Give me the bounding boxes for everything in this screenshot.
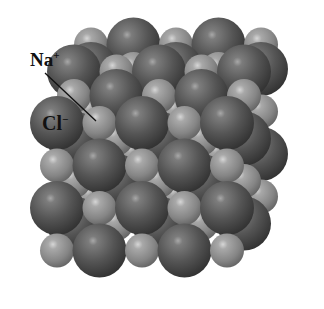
chloride-ion-sphere	[115, 181, 169, 235]
ion-spheres	[30, 18, 288, 278]
chloride-ion-sphere	[73, 139, 127, 193]
chloride-ion-sphere	[30, 181, 84, 235]
sodium-ion-sphere	[168, 106, 202, 140]
nacl-crystal-diagram: Na+ Cl−	[0, 0, 324, 309]
chloride-ion-sphere	[158, 139, 212, 193]
sodium-ion-sphere	[83, 106, 117, 140]
na-charge: +	[53, 49, 59, 61]
sodium-ion-sphere	[40, 149, 74, 183]
sodium-ion-sphere	[40, 234, 74, 268]
sodium-ion-sphere	[125, 149, 159, 183]
sodium-ion-sphere	[168, 191, 202, 225]
sodium-ion-sphere	[210, 234, 244, 268]
crystal-lattice	[0, 0, 324, 309]
cl-ion-label: Cl−	[42, 113, 68, 133]
cl-symbol: Cl	[42, 112, 62, 134]
chloride-ion-sphere	[115, 96, 169, 150]
sodium-ion-sphere	[125, 234, 159, 268]
chloride-ion-sphere	[158, 224, 212, 278]
na-symbol: Na	[30, 49, 53, 70]
chloride-ion-sphere	[200, 96, 254, 150]
sodium-ion-sphere	[210, 149, 244, 183]
sodium-ion-sphere	[83, 191, 117, 225]
chloride-ion-sphere	[73, 224, 127, 278]
na-ion-label: Na+	[30, 50, 60, 69]
chloride-ion-sphere	[200, 181, 254, 235]
cl-charge: −	[62, 113, 68, 125]
